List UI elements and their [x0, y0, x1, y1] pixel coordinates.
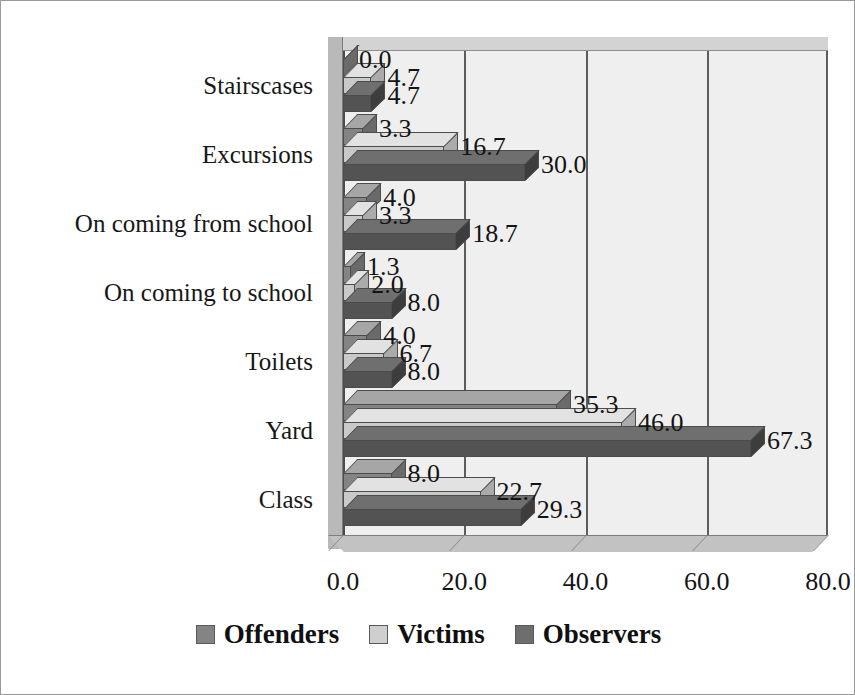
bar-top-face [343, 150, 539, 165]
bar-top-face [343, 219, 471, 234]
bar-observers [343, 219, 456, 236]
bar-top-face [343, 408, 636, 423]
category-label: Stairscases [1, 73, 313, 98]
chart-figure: StairscasesExcursionsOn coming from scho… [0, 0, 855, 695]
bar-observers [343, 288, 392, 305]
bar-observers [343, 426, 751, 443]
legend-label: Observers [543, 621, 661, 648]
category-label: On coming from school [1, 211, 313, 236]
legend-item[interactable]: Offenders [196, 621, 339, 648]
gridline [707, 51, 709, 535]
bar-front-face [343, 95, 371, 112]
category-axis-labels: StairscasesExcursionsOn coming from scho… [1, 39, 319, 549]
bar-victims [343, 477, 481, 494]
bar-front-face [343, 371, 392, 388]
value-tick-label: 40.0 [563, 567, 609, 597]
legend-swatch-icon [369, 625, 388, 644]
gridline [826, 51, 828, 535]
gridline [586, 51, 588, 535]
bar-top-face [343, 132, 459, 147]
bar-observers [343, 81, 371, 98]
value-tick-label: 80.0 [805, 567, 851, 597]
bar-front-face [343, 233, 456, 250]
plot-face [343, 51, 828, 535]
value-tick-label: 60.0 [684, 567, 730, 597]
bar-top-face [343, 426, 765, 441]
bar-offenders [343, 183, 367, 200]
legend-swatch-icon [196, 625, 215, 644]
bar-top-face [343, 495, 535, 510]
bar-offenders [343, 252, 351, 269]
bar-top-face [343, 477, 495, 492]
legend-item[interactable]: Victims [369, 621, 484, 648]
bar-victims [343, 132, 444, 149]
category-label: Toilets [1, 349, 313, 374]
plot-wall-left [328, 37, 343, 549]
category-label: Class [1, 487, 313, 512]
bar-front-face [343, 440, 751, 457]
bar-victims [343, 339, 384, 356]
bar-top-face [343, 390, 571, 405]
plot-area-3d [328, 37, 828, 562]
category-label: On coming to school [1, 280, 313, 305]
bar-front-face [343, 509, 521, 526]
bar-offenders [343, 321, 367, 338]
value-tick-label: 20.0 [442, 567, 488, 597]
bar-offenders [343, 459, 392, 476]
bar-observers [343, 495, 521, 512]
legend-swatch-icon [515, 625, 534, 644]
bar-front-face [343, 164, 525, 181]
bar-offenders [343, 390, 557, 407]
legend-item[interactable]: Observers [515, 621, 661, 648]
legend-label: Victims [397, 621, 484, 648]
bar-victims [343, 201, 363, 218]
legend-label: Offenders [224, 621, 339, 648]
bar-front-face [343, 302, 392, 319]
value-tick-label: 0.0 [327, 567, 360, 597]
value-axis-labels: 0.020.040.060.080.0 [328, 567, 848, 607]
bar-victims [343, 408, 622, 425]
gridline [464, 51, 466, 535]
plot-wall-top [342, 37, 828, 51]
bar-observers [343, 150, 525, 167]
category-label: Excursions [1, 142, 313, 167]
chart-legend: OffendersVictimsObservers [1, 621, 855, 648]
bar-victims [343, 63, 371, 80]
bar-offenders [343, 114, 363, 131]
bar-victims [343, 270, 355, 287]
category-label: Yard [1, 418, 313, 443]
bar-observers [343, 357, 392, 374]
